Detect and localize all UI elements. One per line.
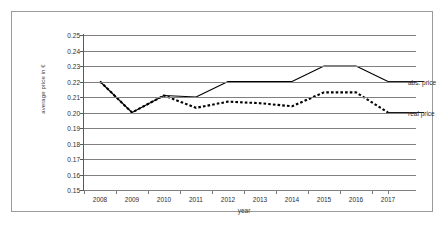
gridline-extension <box>404 190 416 191</box>
gridline-extension <box>404 66 416 67</box>
x-axis-tick-mark <box>244 191 245 194</box>
y-axis-tick-label: 0.15 <box>48 187 80 194</box>
gridline <box>84 35 404 36</box>
y-axis-tick-mark <box>80 35 84 36</box>
y-axis-tick-label: 0.19 <box>48 125 80 132</box>
y-axis-tick-mark <box>80 128 84 129</box>
x-axis-tick-label: 2017 <box>368 196 408 203</box>
plot-area <box>84 35 404 190</box>
gridline-extension <box>404 159 416 160</box>
x-axis-tick-mark <box>308 191 309 194</box>
y-axis-tick-label: 0.18 <box>48 140 80 147</box>
y-axis-tick-labels: 0.250.240.230.220.210.200.190.180.170.16… <box>48 35 80 190</box>
x-axis-tick-mark <box>372 191 373 194</box>
y-axis-tick-mark <box>80 97 84 98</box>
gridline-extension <box>404 175 416 176</box>
y-axis-tick-label: 0.17 <box>48 156 80 163</box>
gridline <box>84 175 404 176</box>
chart-screenshot: average price in € 0.250.240.230.220.210… <box>0 0 446 225</box>
gridline <box>84 82 404 83</box>
gridline-extension <box>404 144 416 145</box>
gridline <box>84 97 404 98</box>
y-axis-tick-mark <box>80 113 84 114</box>
y-axis-tick-mark <box>80 159 84 160</box>
series-label-abs-price: abs. price <box>408 78 436 85</box>
y-axis-tick-mark <box>80 66 84 67</box>
gridline-extension <box>404 35 416 36</box>
gridline-extension <box>404 128 416 129</box>
gridline <box>84 66 404 67</box>
x-axis-tick-mark <box>84 191 85 194</box>
y-axis-tick-label: 0.24 <box>48 47 80 54</box>
gridline <box>84 159 404 160</box>
figure-frame: average price in € 0.250.240.230.220.210… <box>11 11 433 212</box>
y-axis-tick-label: 0.25 <box>48 32 80 39</box>
gridline <box>84 113 404 114</box>
y-axis-tick-label: 0.20 <box>48 109 80 116</box>
x-axis-tick-mark <box>276 191 277 194</box>
gridline <box>84 128 404 129</box>
x-axis-title: year <box>84 207 404 214</box>
gridline-extension <box>404 97 416 98</box>
x-axis-tick-mark <box>116 191 117 194</box>
y-axis-tick-mark <box>80 144 84 145</box>
y-axis-tick-mark <box>80 175 84 176</box>
y-axis-tick-label: 0.16 <box>48 171 80 178</box>
gridline <box>84 51 404 52</box>
x-axis-tick-mark <box>388 191 389 194</box>
x-axis-tick-mark <box>340 191 341 194</box>
y-axis-tick-label: 0.23 <box>48 63 80 70</box>
gridline-extension <box>404 51 416 52</box>
x-axis-tick-mark <box>212 191 213 194</box>
y-axis-tick-mark <box>80 51 84 52</box>
y-axis-tick-label: 0.21 <box>48 94 80 101</box>
series-label-real-price: real price <box>408 109 435 116</box>
x-axis-tick-mark <box>180 191 181 194</box>
y-axis-title: average price in € <box>40 34 46 144</box>
y-axis-tick-mark <box>80 82 84 83</box>
gridline <box>84 144 404 145</box>
y-axis-tick-label: 0.22 <box>48 78 80 85</box>
x-axis-tick-mark <box>148 191 149 194</box>
